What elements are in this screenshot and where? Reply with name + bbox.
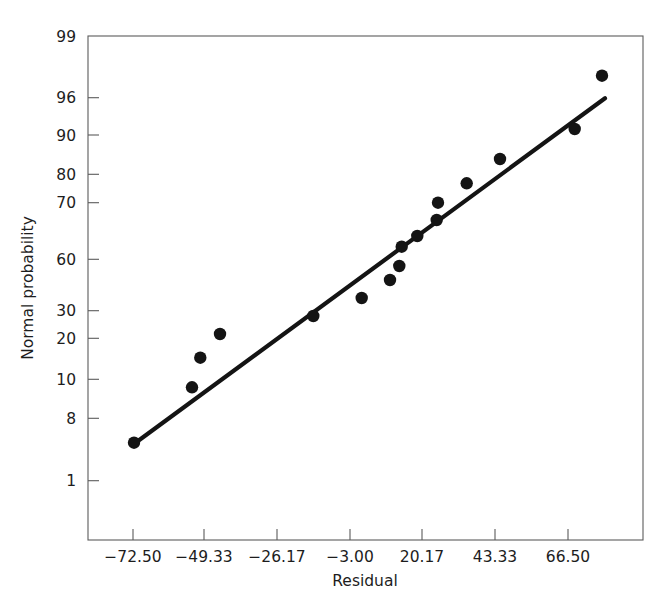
y-axis-title: Normal probability [19, 216, 37, 360]
data-point-12 [461, 177, 473, 189]
data-point-3 [214, 328, 226, 340]
data-point-4 [307, 310, 319, 322]
x-tick-label-1: −49.33 [175, 548, 232, 566]
data-point-9 [411, 230, 423, 242]
y-tick-label-8: 10 [56, 371, 76, 389]
y-tick-label-5: 60 [56, 251, 76, 269]
y-tick-label-7: 20 [56, 330, 76, 348]
figure-background [0, 0, 672, 613]
y-tick-label-6: 30 [56, 302, 76, 320]
data-point-15 [596, 70, 608, 82]
data-point-8 [396, 241, 408, 253]
x-tick-label-2: −26.17 [248, 548, 305, 566]
x-tick-label-4: 20.17 [400, 548, 444, 566]
normal-probability-plot-figure: −72.50−49.33−26.17−3.0020.1743.3366.50 9… [0, 0, 672, 613]
data-point-6 [384, 274, 396, 286]
y-tick-label-3: 80 [56, 166, 76, 184]
data-point-0 [128, 437, 140, 449]
x-tick-label-5: 43.33 [473, 548, 517, 566]
data-point-11 [432, 197, 444, 209]
y-tick-label-10: 1 [66, 472, 76, 490]
x-axis-title: Residual [332, 572, 397, 590]
data-point-1 [186, 381, 198, 393]
data-point-2 [194, 352, 206, 364]
plot-canvas: −72.50−49.33−26.17−3.0020.1743.3366.50 9… [0, 0, 672, 613]
y-tick-label-0: 99 [56, 28, 76, 46]
y-tick-label-1: 96 [56, 89, 76, 107]
data-point-10 [431, 214, 443, 226]
data-point-14 [569, 123, 581, 135]
y-tick-label-9: 8 [66, 410, 76, 428]
data-point-5 [356, 292, 368, 304]
y-tick-label-2: 90 [56, 127, 76, 145]
data-point-7 [393, 260, 405, 272]
x-tick-label-0: −72.50 [104, 548, 161, 566]
data-point-13 [494, 153, 506, 165]
x-tick-label-6: 66.50 [546, 548, 590, 566]
y-tick-label-4: 70 [56, 194, 76, 212]
x-tick-label-3: −3.00 [326, 548, 374, 566]
